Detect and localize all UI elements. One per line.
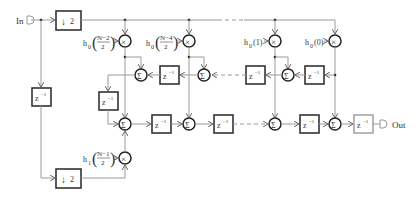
svg-text:z: z [308, 72, 312, 81]
svg-text:−1: −1 [314, 70, 320, 75]
delay-bot-2: z−1 [214, 115, 233, 133]
svg-text:2: 2 [164, 43, 168, 51]
svg-text:−1: −1 [255, 70, 261, 75]
svg-text:−1: −1 [41, 92, 47, 97]
svg-text:×: × [331, 37, 336, 47]
delay-input: z−1 [32, 88, 51, 106]
svg-text:N−4: N−4 [160, 34, 173, 42]
svg-text:z: z [102, 98, 106, 107]
delay-mid-left: z−1 [99, 92, 118, 110]
svg-text:×: × [121, 154, 126, 164]
svg-text:z: z [303, 121, 307, 130]
svg-text:↓: ↓ [61, 174, 66, 185]
svg-text:(0): (0) [314, 38, 324, 47]
sum-mid-3: Σ [282, 69, 294, 81]
svg-text:0: 0 [88, 44, 91, 50]
svg-text:2: 2 [101, 159, 105, 167]
delay-mid-2: z−1 [160, 66, 179, 84]
svg-text:−1: −1 [309, 119, 315, 124]
delay-mid-4: z−1 [305, 66, 324, 84]
svg-text:z: z [249, 72, 253, 81]
svg-text:In: In [16, 16, 24, 26]
coef-label-5: h 1 ( N−1 2 ) [83, 150, 115, 168]
svg-text:2: 2 [70, 17, 74, 26]
svg-text:h: h [83, 39, 87, 48]
svg-text:−1: −1 [161, 119, 167, 124]
coef-label-1: h 0 ( N−2 2 ) [83, 34, 115, 52]
delay-bot-3: z−1 [300, 115, 319, 133]
svg-text:2: 2 [101, 43, 105, 51]
svg-text:(1): (1) [253, 38, 263, 47]
delay-output: z−1 [354, 115, 373, 133]
svg-text:h: h [244, 38, 248, 47]
svg-text:Σ: Σ [331, 121, 336, 130]
sum-mid-2: Σ [198, 69, 210, 81]
svg-text:N−2: N−2 [97, 34, 110, 42]
svg-text:×: × [271, 37, 276, 47]
sum-bot-4: Σ [329, 118, 341, 130]
sum-bot-2: Σ [183, 118, 195, 130]
svg-text:): ) [110, 150, 115, 168]
output-terminal: Out [380, 120, 406, 130]
svg-text:h: h [305, 38, 309, 47]
svg-text:): ) [110, 34, 115, 52]
sum-bot-1: Σ [119, 118, 131, 130]
multiplier-2: × [183, 35, 195, 47]
svg-text:z: z [155, 121, 159, 130]
multiplier-4: × [329, 35, 341, 47]
svg-text:z: z [35, 94, 39, 103]
svg-text:Σ: Σ [137, 72, 142, 81]
downsampler-bottom: ↓ 2 [56, 169, 81, 188]
coef-label-2: h 0 ( N−4 2 ) [146, 34, 178, 52]
coef-label-4: h 0 (0) [305, 38, 324, 49]
svg-text:×: × [121, 37, 126, 47]
svg-text:0: 0 [249, 43, 252, 49]
input-terminal: In [16, 16, 34, 26]
delay-bot-1: z−1 [152, 115, 171, 133]
svg-text:h: h [146, 39, 150, 48]
svg-text:−1: −1 [223, 119, 229, 124]
svg-text:Σ: Σ [271, 121, 276, 130]
multiplier-5: × [119, 152, 131, 164]
multiplier-3: × [269, 35, 281, 47]
svg-text:0: 0 [151, 44, 154, 50]
svg-text:z: z [163, 72, 167, 81]
svg-text:h: h [83, 155, 87, 164]
svg-text:−1: −1 [363, 119, 369, 124]
svg-text:N−1: N−1 [97, 150, 110, 158]
delay-mid-3: z−1 [246, 66, 265, 84]
svg-text:×: × [185, 37, 190, 47]
multiplier-1: × [119, 35, 131, 47]
sum-mid-1: Σ [135, 69, 147, 81]
downsampler-top: ↓ 2 [56, 11, 81, 30]
svg-text:1: 1 [88, 160, 91, 166]
svg-text:0: 0 [310, 43, 313, 49]
svg-text:z: z [357, 121, 361, 130]
svg-text:): ) [173, 34, 178, 52]
svg-text:2: 2 [70, 175, 74, 184]
svg-text:Σ: Σ [284, 72, 289, 81]
svg-text:z: z [217, 121, 221, 130]
coef-label-3: h 0 (1) [244, 38, 263, 49]
svg-text:↓: ↓ [61, 16, 66, 27]
svg-text:−1: −1 [108, 96, 114, 101]
svg-text:Out: Out [392, 120, 406, 130]
svg-text:Σ: Σ [121, 121, 126, 130]
svg-text:Σ: Σ [200, 72, 205, 81]
polyphase-filter-diagram: In ↓ 2 × × × × h 0 ( N−2 2 ) h 0 ( N−4 2 [0, 0, 420, 200]
svg-text:Σ: Σ [185, 121, 190, 130]
sum-bot-3: Σ [269, 118, 281, 130]
svg-text:−1: −1 [169, 70, 175, 75]
